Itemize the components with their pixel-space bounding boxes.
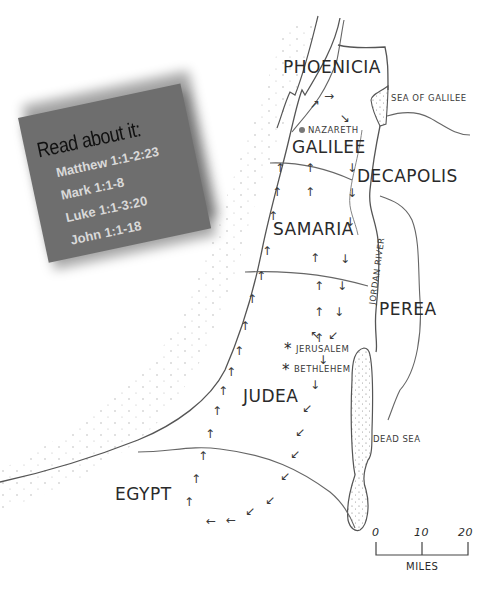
svg-text:↙: ↙ (302, 401, 312, 415)
svg-text:↓: ↓ (347, 186, 357, 200)
place-label-dead-sea: DEAD SEA (373, 434, 421, 444)
svg-text:↙: ↙ (295, 425, 305, 439)
place-label-nazareth: NAZARETH (308, 125, 359, 135)
svg-text:↑: ↑ (184, 495, 194, 509)
svg-text:↑: ↑ (205, 427, 215, 441)
svg-text:↑: ↑ (305, 185, 315, 199)
scale-tick-0: 0 (372, 526, 380, 539)
svg-text:↑: ↑ (305, 161, 315, 175)
svg-text:↓: ↓ (347, 161, 357, 175)
place-label-sea-of-galilee: SEA OF GALILEE (391, 93, 467, 103)
svg-text:↓: ↓ (310, 378, 320, 392)
region-label-phoenicia: PHOENICIA (283, 57, 381, 77)
scale-tick-10: 10 (414, 526, 429, 539)
svg-text:↙: ↙ (290, 447, 300, 461)
svg-text:↑: ↑ (240, 319, 250, 333)
svg-text:↑: ↑ (234, 344, 244, 358)
svg-text:↑: ↑ (247, 292, 257, 306)
scale-tick-20: 20 (458, 526, 473, 539)
region-label-galilee: GALILEE (292, 137, 366, 157)
svg-text:↑: ↑ (314, 331, 324, 345)
svg-text:↑: ↑ (272, 185, 282, 199)
svg-text:↑: ↑ (268, 209, 278, 223)
svg-text:↓: ↓ (345, 215, 355, 229)
svg-text:↙: ↙ (265, 493, 275, 507)
svg-text:←: ← (206, 514, 216, 528)
place-label-jordan-river: JORDAN RIVER (367, 237, 386, 307)
svg-text:↙: ↙ (328, 328, 338, 342)
svg-text:↘: ↘ (340, 111, 350, 125)
svg-text:↗: ↗ (310, 97, 320, 111)
region-label-samaria: SAMARIA (273, 219, 354, 239)
dead-sea-shape (347, 348, 372, 531)
map: PHOENICIA GALILEE DECAPOLIS SAMARIA PERE… (0, 0, 493, 590)
svg-text:↑: ↑ (262, 244, 272, 258)
scale-unit: MILES (406, 561, 438, 572)
region-label-perea: PEREA (379, 299, 437, 319)
bethlehem-star-icon: * (282, 361, 290, 379)
svg-text:↑: ↑ (314, 279, 324, 293)
svg-text:↑: ↑ (218, 384, 228, 398)
svg-text:←: ← (226, 513, 236, 527)
svg-text:↑: ↑ (191, 472, 201, 486)
decapolis-north-border (387, 113, 470, 136)
jerusalem-star-icon: * (284, 340, 292, 358)
svg-text:↑: ↑ (256, 269, 266, 283)
svg-text:↑: ↑ (275, 161, 285, 175)
sea-of-galilee-shape (371, 86, 388, 126)
svg-text:↑: ↑ (198, 449, 208, 463)
region-label-decapolis: DECAPOLIS (357, 166, 458, 186)
svg-text:↙: ↙ (280, 469, 290, 483)
svg-text:→: → (324, 89, 334, 103)
region-label-egypt: EGYPT (115, 484, 172, 504)
svg-text:↓: ↓ (337, 279, 347, 293)
svg-text:↑: ↑ (212, 404, 222, 418)
svg-text:↑: ↑ (310, 251, 320, 265)
svg-text:↑: ↑ (314, 305, 324, 319)
nazareth-dot-icon (299, 127, 305, 133)
region-label-judea: JUDEA (242, 386, 298, 406)
scale-bar: 0 10 20 MILES (372, 526, 473, 572)
svg-text:↑: ↑ (226, 365, 236, 379)
svg-text:↙: ↙ (245, 504, 255, 518)
svg-text:↓: ↓ (340, 252, 350, 266)
svg-text:↓: ↓ (318, 353, 328, 367)
svg-text:↓: ↓ (334, 305, 344, 319)
